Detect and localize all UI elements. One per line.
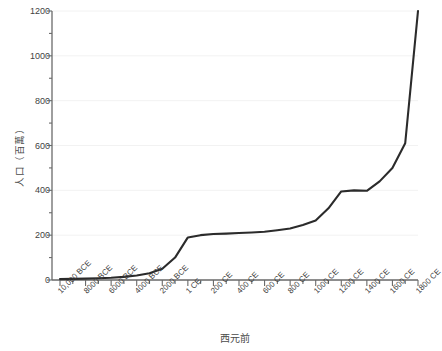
- y-axis: [47, 11, 52, 280]
- x-axis: [52, 280, 418, 286]
- gridline-group: [52, 11, 418, 280]
